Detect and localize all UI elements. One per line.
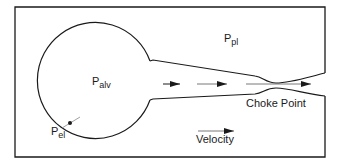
label-pleural-pressure: Ppl <box>224 33 238 47</box>
recoil-marker-dot <box>68 121 72 125</box>
label-alveolar-pressure: Palv <box>92 76 111 90</box>
label-velocity: Velocity <box>196 134 234 145</box>
airway-choke-point-diagram <box>0 0 340 167</box>
label-subscript: el <box>58 130 65 140</box>
label-subscript: alv <box>99 80 111 90</box>
label-elastic-recoil-pressure: Pel <box>51 126 65 140</box>
airway-upper-wall <box>150 60 325 83</box>
label-choke-point: Choke Point <box>246 98 306 109</box>
label-subscript: pl <box>231 37 238 47</box>
